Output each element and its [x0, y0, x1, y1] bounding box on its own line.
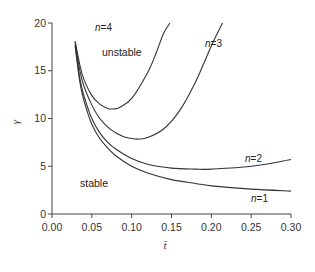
- y-tick-label: 15: [34, 64, 46, 76]
- labels: n=1n=2n=3n=4unstablestable: [80, 22, 268, 204]
- unstable-region-label: unstable: [102, 46, 142, 58]
- x-tick-label: 0.20: [201, 221, 222, 233]
- curve-label-n1: n=1: [251, 193, 268, 204]
- x-tick-label: 0.05: [82, 221, 103, 233]
- curve-n3: [75, 23, 222, 139]
- x-tick-label: 0.30: [281, 221, 302, 233]
- y-tick-label: 5: [40, 160, 46, 172]
- curve-n2: [75, 44, 291, 169]
- curve-label-n3: n=3: [205, 38, 222, 49]
- y-tick-label: 20: [34, 17, 46, 29]
- curve-n4: [75, 23, 170, 109]
- y-tick-label: 10: [34, 112, 46, 124]
- x-tick-label: 0.00: [42, 221, 63, 233]
- curve-label-n4: n=4: [95, 22, 112, 33]
- y-tick-label: 0: [40, 208, 46, 220]
- x-tick-label: 0.25: [241, 221, 262, 233]
- x-tick-label: 0.15: [161, 221, 182, 233]
- stable-region-label: stable: [80, 177, 108, 189]
- x-tick-label: 0.10: [121, 221, 142, 233]
- x-axis-title: t̄: [163, 239, 167, 251]
- curve-label-n2: n=2: [245, 153, 262, 164]
- y-axis-title: γ: [9, 119, 21, 124]
- stability-chart: 051015200.000.050.100.150.200.250.30γt̄ …: [0, 0, 315, 272]
